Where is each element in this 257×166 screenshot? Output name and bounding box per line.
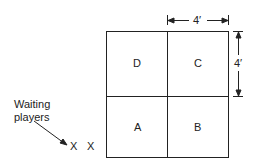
four-square-court xyxy=(107,32,229,158)
waiting-label-line1: Waiting xyxy=(14,98,50,111)
square-label-b: B xyxy=(194,121,201,134)
arrow-up-icon xyxy=(236,32,241,38)
arrow-left-icon xyxy=(168,18,174,23)
square-label-a: A xyxy=(134,121,141,134)
arrow-icon xyxy=(60,139,67,145)
square-label-c: C xyxy=(194,57,202,70)
waiting-arrow xyxy=(34,121,67,145)
height-dimension-label: 4′ xyxy=(234,57,242,70)
waiting-player-marker: X xyxy=(87,140,94,153)
waiting-label-line2: players xyxy=(14,111,49,124)
square-label-d: D xyxy=(133,57,141,70)
waiting-player-marker: X xyxy=(70,140,77,153)
court-diagram xyxy=(0,0,257,166)
arrow-down-icon xyxy=(236,90,241,96)
arrow-right-icon xyxy=(222,18,228,23)
width-dimension-label: 4′ xyxy=(193,14,201,27)
